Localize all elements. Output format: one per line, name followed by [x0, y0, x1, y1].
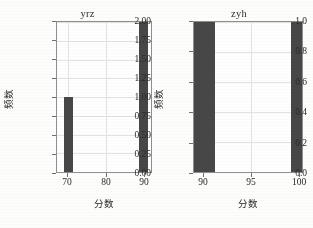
y-tick-label: 0.50: [105, 130, 157, 140]
bar-90: [194, 22, 215, 172]
x-tick-label: 90: [139, 177, 149, 187]
x-tick-label: 90: [198, 177, 208, 187]
x-tick-label: 80: [101, 177, 111, 187]
bar-100: [291, 22, 302, 172]
x-tick-label: 70: [62, 177, 72, 187]
x-axis-label-zyh: 分数: [193, 196, 303, 210]
y-axis-label-zyh: 频数: [151, 77, 165, 121]
y-tickmark: [189, 173, 193, 174]
subplot-yrz: yrz 频数 2.00 1.75 1.50 1.25 1.00 0.75 0.: [0, 0, 157, 228]
y-tick-label: 1.50: [105, 54, 157, 64]
y-tick-label: 1.0: [279, 16, 313, 26]
y-tickmark: [52, 59, 56, 60]
y-tick-label: 0.6: [279, 77, 313, 87]
x-tick-label: 95: [246, 177, 256, 187]
y-tickmark: [52, 135, 56, 136]
bar-70: [64, 97, 73, 172]
gridline-v: [251, 22, 252, 172]
y-tickmark: [52, 78, 56, 79]
y-tickmark: [52, 173, 56, 174]
x-axis-label-yrz: 分数: [56, 196, 152, 210]
y-tick-label: 0.25: [105, 149, 157, 159]
y-tick-label: 0.8: [279, 46, 313, 56]
y-axis-label-yrz: 频数: [1, 77, 15, 121]
x-tick-label: 100: [292, 177, 306, 187]
y-tickmark: [52, 154, 56, 155]
y-tick-label: 2.00: [105, 16, 157, 26]
y-tickmark: [189, 143, 193, 144]
figure-canvas: yrz 频数 2.00 1.75 1.50 1.25 1.00 0.75 0.: [0, 0, 313, 228]
y-tickmark: [52, 116, 56, 117]
y-tickmark: [189, 112, 193, 113]
y-tickmark: [189, 21, 193, 22]
y-tickmark: [52, 97, 56, 98]
y-tick-label: 1.25: [105, 73, 157, 83]
y-tickmark: [52, 21, 56, 22]
y-tick-label: 0.75: [105, 111, 157, 121]
y-tickmark: [189, 82, 193, 83]
y-tick-label: 1.00: [105, 92, 157, 102]
plot-area-zyh: [193, 21, 303, 173]
subplot-zyh: zyh 频数 1.0 0.8 0.6 0.4 0.2 0.0: [157, 0, 313, 228]
y-tick-label: 1.75: [105, 35, 157, 45]
y-tickmark: [52, 40, 56, 41]
y-tick-label: 0.4: [279, 107, 313, 117]
y-tickmark: [189, 51, 193, 52]
y-tick-label: 0.2: [279, 138, 313, 148]
